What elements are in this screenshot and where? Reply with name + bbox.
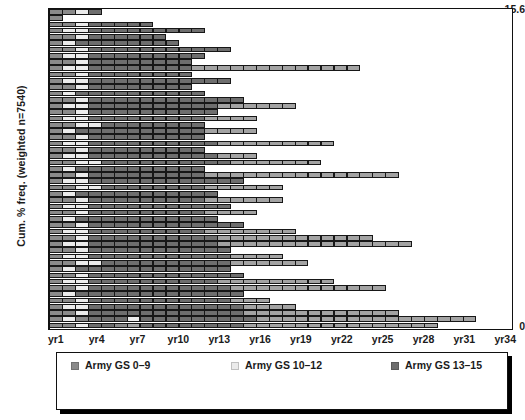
bar-segment bbox=[191, 78, 205, 84]
bar-segment bbox=[243, 260, 257, 266]
bar-segment bbox=[101, 134, 115, 140]
bar-segment bbox=[62, 53, 76, 59]
bar-segment bbox=[179, 273, 193, 279]
bar-segment bbox=[191, 47, 205, 53]
bar-segment bbox=[191, 28, 205, 34]
bar-segment bbox=[88, 116, 102, 122]
bar-segment bbox=[153, 116, 167, 122]
bar-segment bbox=[191, 178, 205, 184]
bar-segment bbox=[179, 178, 193, 184]
bar-segment bbox=[153, 260, 167, 266]
bar-segment bbox=[243, 229, 257, 235]
bar-segment bbox=[140, 266, 154, 272]
bar-row bbox=[50, 197, 283, 203]
bar-segment bbox=[62, 166, 76, 172]
bar-segment bbox=[49, 260, 63, 266]
bar-segment bbox=[191, 153, 205, 159]
bar-segment bbox=[101, 65, 115, 71]
bar-segment bbox=[101, 310, 115, 316]
bar-segment bbox=[75, 316, 89, 322]
bar-segment bbox=[140, 304, 154, 310]
bar-segment bbox=[334, 285, 348, 291]
bar-segment bbox=[140, 141, 154, 147]
bar-segment bbox=[295, 260, 309, 266]
bar-segment bbox=[230, 116, 244, 122]
bar-segment bbox=[191, 204, 205, 210]
bar-segment bbox=[191, 91, 205, 97]
bar-segment bbox=[114, 59, 128, 65]
bar-segment bbox=[179, 210, 193, 216]
bar-segment bbox=[385, 172, 399, 178]
bar-segment bbox=[217, 78, 231, 84]
bar-segment bbox=[256, 160, 270, 166]
bar-segment bbox=[179, 279, 193, 285]
bar-segment bbox=[191, 241, 205, 247]
bar-row bbox=[50, 291, 244, 297]
bar-segment bbox=[101, 122, 115, 128]
bar-segment bbox=[49, 78, 63, 84]
bar-segment bbox=[49, 84, 63, 90]
bar-segment bbox=[243, 254, 257, 260]
bar-row bbox=[50, 241, 412, 247]
bar-segment bbox=[62, 229, 76, 235]
bar-segment bbox=[153, 141, 167, 147]
bar-segment bbox=[179, 153, 193, 159]
bar-segment bbox=[140, 254, 154, 260]
bar-segment bbox=[153, 122, 167, 128]
bar-segment bbox=[308, 65, 322, 71]
bar-segment bbox=[114, 109, 128, 115]
bar-segment bbox=[243, 103, 257, 109]
bar-segment bbox=[114, 153, 128, 159]
bar-segment bbox=[308, 323, 322, 329]
bar-segment bbox=[230, 128, 244, 134]
bar-segment bbox=[398, 241, 412, 247]
bar-segment bbox=[334, 310, 348, 316]
bar-segment bbox=[127, 316, 141, 322]
x-axis-tick-label: yr25 bbox=[361, 333, 405, 345]
bar-segment bbox=[88, 65, 102, 71]
bar-segment bbox=[49, 266, 63, 272]
bar-segment bbox=[217, 47, 231, 53]
bar-segment bbox=[153, 178, 167, 184]
bar-segment bbox=[204, 197, 218, 203]
bar-segment bbox=[321, 65, 335, 71]
bar-segment bbox=[204, 160, 218, 166]
bar-segment bbox=[140, 160, 154, 166]
bar-segment bbox=[153, 153, 167, 159]
bar-segment bbox=[114, 122, 128, 128]
bar-segment bbox=[166, 153, 180, 159]
bar-segment bbox=[256, 241, 270, 247]
bar-segment bbox=[191, 65, 205, 71]
bar-segment bbox=[179, 134, 193, 140]
bar-segment bbox=[334, 235, 348, 241]
bar-segment bbox=[88, 166, 102, 172]
bar-segment bbox=[75, 210, 89, 216]
bar-segment bbox=[75, 229, 89, 235]
bar-segment bbox=[191, 128, 205, 134]
bar-segment bbox=[204, 285, 218, 291]
bar-segment bbox=[256, 172, 270, 178]
bar-segment bbox=[101, 153, 115, 159]
bar-segment bbox=[230, 210, 244, 216]
bar-segment bbox=[75, 134, 89, 140]
bar-segment bbox=[179, 247, 193, 253]
bar-row bbox=[50, 229, 296, 235]
bar-segment bbox=[385, 241, 399, 247]
bar-segment bbox=[243, 128, 257, 134]
bar-segment bbox=[153, 191, 167, 197]
bar-segment bbox=[101, 229, 115, 235]
bar-row bbox=[50, 298, 270, 304]
bar-segment bbox=[230, 103, 244, 109]
bar-segment bbox=[166, 235, 180, 241]
bar-segment bbox=[179, 91, 193, 97]
bar-segment bbox=[243, 116, 257, 122]
bar-segment bbox=[49, 9, 63, 15]
bar-segment bbox=[140, 59, 154, 65]
bar-segment bbox=[88, 229, 102, 235]
bar-segment bbox=[49, 254, 63, 260]
bar-segment bbox=[88, 122, 102, 128]
bar-segment bbox=[179, 116, 193, 122]
bar-segment bbox=[88, 91, 102, 97]
bar-segment bbox=[114, 185, 128, 191]
bar-segment bbox=[191, 222, 205, 228]
